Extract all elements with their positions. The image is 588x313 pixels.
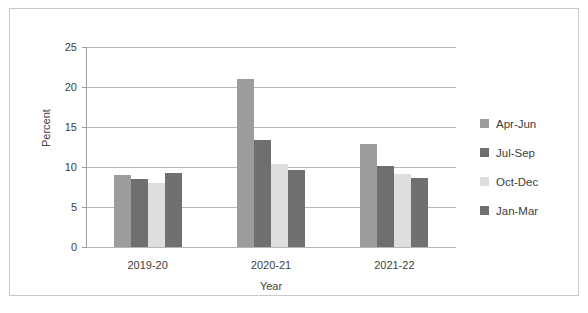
- legend-label: Apr-Jun: [496, 118, 536, 130]
- plot-area: 0510152025 2019-202020-212021-22: [86, 47, 456, 247]
- bar[interactable]: [237, 79, 254, 247]
- bar[interactable]: [131, 179, 148, 247]
- y-axis-tick-label: 10: [65, 161, 77, 173]
- bar[interactable]: [288, 170, 305, 247]
- y-axis-tick-label: 20: [65, 81, 77, 93]
- chart-frame: Percent 0510152025 2019-202020-212021-22…: [9, 8, 579, 296]
- y-axis-tick-label: 25: [65, 41, 77, 53]
- bar[interactable]: [254, 140, 271, 247]
- bar[interactable]: [165, 173, 182, 247]
- x-axis-title: Year: [86, 280, 456, 292]
- bar-group: 2019-20: [114, 47, 182, 247]
- x-axis-category-label: 2019-20: [114, 259, 182, 271]
- legend-swatch-icon: [480, 206, 489, 215]
- legend-item[interactable]: Apr-Jun: [480, 109, 538, 138]
- y-axis-tick-label: 5: [71, 201, 77, 213]
- bar[interactable]: [411, 178, 428, 247]
- legend-item[interactable]: Oct-Dec: [480, 167, 538, 196]
- y-axis-tick: [82, 207, 87, 208]
- legend-item[interactable]: Jul-Sep: [480, 138, 538, 167]
- y-axis-tick: [82, 47, 87, 48]
- gridline: [86, 247, 456, 248]
- legend-label: Oct-Dec: [496, 176, 538, 188]
- y-axis-title: Percent: [40, 109, 52, 147]
- legend-swatch-icon: [480, 119, 489, 128]
- bar[interactable]: [377, 166, 394, 247]
- chart-legend: Apr-JunJul-SepOct-DecJan-Mar: [480, 109, 538, 225]
- y-axis-tick-label: 0: [71, 241, 77, 253]
- y-axis-tick: [82, 247, 87, 248]
- bar-group: 2020-21: [237, 47, 305, 247]
- bar[interactable]: [360, 144, 377, 247]
- bar[interactable]: [271, 164, 288, 247]
- bar[interactable]: [394, 174, 411, 247]
- y-axis-tick: [82, 127, 87, 128]
- bar-group: 2021-22: [360, 47, 428, 247]
- legend-label: Jul-Sep: [496, 147, 535, 159]
- legend-swatch-icon: [480, 148, 489, 157]
- bar[interactable]: [114, 175, 131, 247]
- x-axis-category-label: 2020-21: [237, 259, 305, 271]
- y-axis-tick: [82, 167, 87, 168]
- legend-swatch-icon: [480, 177, 489, 186]
- value-axis-line: [86, 47, 87, 247]
- y-axis-tick-label: 15: [65, 121, 77, 133]
- legend-item[interactable]: Jan-Mar: [480, 196, 538, 225]
- legend-label: Jan-Mar: [496, 205, 538, 217]
- y-axis-tick: [82, 87, 87, 88]
- x-axis-category-label: 2021-22: [360, 259, 428, 271]
- bar[interactable]: [148, 183, 165, 247]
